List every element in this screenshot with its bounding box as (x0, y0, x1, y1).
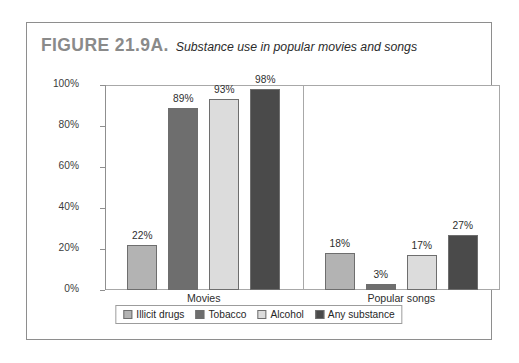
bar-value-label: 17% (412, 240, 432, 251)
bar-value-label: 3% (373, 269, 388, 280)
figure-title: Substance use in popular movies and song… (176, 40, 417, 54)
y-axis-line (105, 85, 106, 290)
legend-swatch-icon (123, 310, 132, 319)
bar-value-label: 22% (132, 230, 152, 241)
chart-plot: 0%20%40%60%80%100% 22%89%93%98%18%3%17%2… (83, 85, 500, 290)
legend-item[interactable]: Tobacco (195, 309, 246, 320)
y-axis-tick: 20% (83, 249, 105, 250)
bar (448, 235, 478, 290)
chart-legend: Illicit drugsTobaccoAlcoholAny substance (115, 305, 402, 324)
legend-label: Any substance (328, 309, 395, 320)
bar (366, 284, 396, 290)
y-axis-tick: 0% (83, 290, 105, 291)
bar (250, 89, 280, 290)
y-axis-tick-label: 0% (64, 283, 79, 294)
y-axis-tick-label: 80% (59, 119, 79, 130)
legend-item[interactable]: Alcohol (257, 309, 303, 320)
legend-label: Illicit drugs (136, 309, 184, 320)
bar-value-label: 27% (453, 220, 473, 231)
bar-value-label: 98% (255, 74, 275, 85)
bar-value-label: 93% (214, 84, 234, 95)
category-label: Movies (187, 292, 221, 304)
legend-swatch-icon (195, 310, 204, 319)
y-axis-tick: 40% (83, 208, 105, 209)
legend-item[interactable]: Illicit drugs (123, 309, 184, 320)
y-axis-tick: 60% (83, 167, 105, 168)
figure-number: FIGURE 21.9A. (41, 35, 169, 55)
figure-frame: FIGURE 21.9A.Substance use in popular mo… (26, 22, 492, 340)
y-axis-tick-label: 100% (53, 78, 79, 89)
y-axis-tick: 100% (83, 85, 105, 86)
bar (168, 108, 198, 290)
bar (407, 255, 437, 290)
y-axis-tick-label: 20% (59, 242, 79, 253)
bar-value-label: 18% (330, 238, 350, 249)
legend-swatch-icon (315, 310, 324, 319)
category-label: Popular songs (367, 292, 435, 304)
legend-swatch-icon (257, 310, 266, 319)
y-axis-tick-label: 60% (59, 160, 79, 171)
bar-value-label: 89% (173, 93, 193, 104)
plot-area (105, 85, 500, 290)
figure-caption: FIGURE 21.9A.Substance use in popular mo… (41, 35, 417, 56)
y-axis-tick: 80% (83, 126, 105, 127)
legend-label: Alcohol (270, 309, 303, 320)
y-axis-tick-label: 40% (59, 201, 79, 212)
bar (325, 253, 355, 290)
group-divider (303, 86, 304, 289)
legend-item[interactable]: Any substance (315, 309, 395, 320)
bar (209, 99, 239, 290)
legend-label: Tobacco (208, 309, 246, 320)
bar (127, 245, 157, 290)
